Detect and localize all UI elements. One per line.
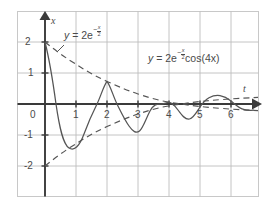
x-tick-label-1: 1 [73,110,79,120]
x-tick-label-2: 2 [104,110,110,120]
envelope-eq-equals: = [72,29,78,41]
envelope-eq-coefficient: 2e [81,29,93,41]
x-tick-label-6: 6 [228,110,234,120]
y-tick-label-neg1: -1 [24,130,33,140]
curve-eq-lhs: y [148,52,153,64]
plot-canvas [0,0,267,209]
envelope-equation-label: y = 2e− x 2 [64,28,101,42]
curve-eq-equals: = [156,52,162,64]
y-tick-label-1: 1 [28,68,34,78]
origin-label: 0 [30,110,36,120]
vertical-axis-label: x [51,16,55,26]
x-tick-label-4: 4 [166,110,172,120]
math-graph-figure: 2 1 -1 -2 0 1 2 3 4 5 6 x t y = 2e− x 2 … [0,0,267,209]
curve-eq-exponent-denominator: 2 [181,55,185,61]
envelope-eq-exponent-denominator: 2 [97,32,101,38]
curve-eq-trailing: cos(4x) [185,52,219,64]
horizontal-axis-label: t [243,84,246,94]
curve-equation-label: y = 2e− x 2 cos(4x) [148,51,220,65]
x-tick-label-5: 5 [197,110,203,120]
envelope-eq-lhs: y [64,29,69,41]
envelope-eq-exponent: x 2 [97,25,101,38]
curve-eq-coefficient: 2e [165,52,177,64]
x-tick-label-3: 3 [135,110,141,120]
y-tick-label-2: 2 [25,37,31,47]
y-tick-label-neg2: -2 [24,161,33,171]
curve-eq-exponent: x 2 [181,48,185,61]
